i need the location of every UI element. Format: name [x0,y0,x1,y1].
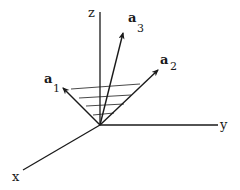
vector-label-a3: a [128,10,137,25]
vector-a2-arrow [100,70,158,125]
vector-diagram: z y x a 1 a 2 a 3 [0,0,240,190]
vector-subscript-a2: 2 [170,60,177,73]
vector-a1-arrow [63,88,100,125]
vector-label-a2: a [160,52,169,67]
axis-label-x: x [12,169,20,184]
axis-label-z: z [88,5,95,20]
vector-label-a1: a [44,71,53,86]
hatch-line [79,95,131,98]
vector-subscript-a3: 3 [137,22,144,35]
basis-vectors [63,33,158,125]
vector-a3-arrow [100,33,123,125]
plane-hatching [71,84,140,115]
vector-subscript-a1: 1 [53,82,60,95]
hatch-line [71,84,140,89]
axis-label-y: y [219,117,228,132]
axis-x [23,125,100,170]
